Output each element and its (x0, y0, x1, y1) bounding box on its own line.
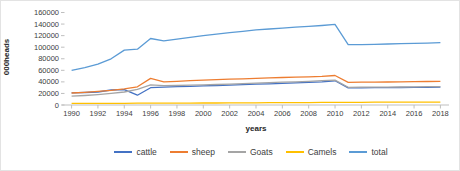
y-tick-label: 100000 (19, 43, 59, 52)
x-tick-label: 2004 (242, 109, 270, 118)
x-tick-label: 1994 (110, 109, 138, 118)
x-tick-label: 2010 (321, 109, 349, 118)
legend-line-swatch (170, 151, 188, 153)
x-tick-label: 2002 (216, 109, 244, 118)
legend-label: total (371, 147, 387, 157)
plot-area (1, 1, 460, 171)
x-tick-label: 1998 (163, 109, 191, 118)
x-tick-label: 2014 (374, 109, 402, 118)
x-axis-title: years (65, 124, 447, 133)
legend-item-goats: Goats (228, 147, 273, 157)
legend-item-camels: Camels (286, 147, 337, 157)
x-tick-label: 2008 (295, 109, 323, 118)
x-tick-label: 2018 (426, 109, 454, 118)
legend-line-swatch (349, 151, 367, 153)
x-tick-label: 2012 (347, 109, 375, 118)
livestock-population-line-chart: 000heads 0200004000060000800001000001200… (0, 0, 460, 171)
x-tick-label: 2006 (268, 109, 296, 118)
y-tick-label: 20000 (19, 89, 59, 98)
x-tick-label: 2016 (400, 109, 428, 118)
x-tick-label: 2000 (189, 109, 217, 118)
series-line-camels (72, 102, 441, 103)
y-tick-label: 140000 (19, 20, 59, 29)
x-tick-label: 1996 (137, 109, 165, 118)
y-tick-label: 0 (19, 101, 59, 110)
y-tick-label: 160000 (19, 8, 59, 17)
legend-label: sheep (192, 147, 215, 157)
series-line-total (72, 24, 441, 70)
y-tick-label: 120000 (19, 31, 59, 40)
legend-label: cattle (136, 147, 156, 157)
legend: cattlesheepGoatsCamelstotal (41, 147, 460, 157)
legend-item-sheep: sheep (170, 147, 215, 157)
legend-line-swatch (286, 151, 304, 153)
legend-label: Camels (308, 147, 337, 157)
y-tick-label: 60000 (19, 66, 59, 75)
legend-label: Goats (250, 147, 273, 157)
x-tick-label: 1990 (58, 109, 86, 118)
legend-item-total: total (349, 147, 387, 157)
legend-line-swatch (228, 151, 246, 153)
x-tick-label: 1992 (84, 109, 112, 118)
legend-item-cattle: cattle (114, 147, 156, 157)
y-tick-label: 40000 (19, 77, 59, 86)
y-tick-label: 80000 (19, 54, 59, 63)
legend-line-swatch (114, 151, 132, 153)
